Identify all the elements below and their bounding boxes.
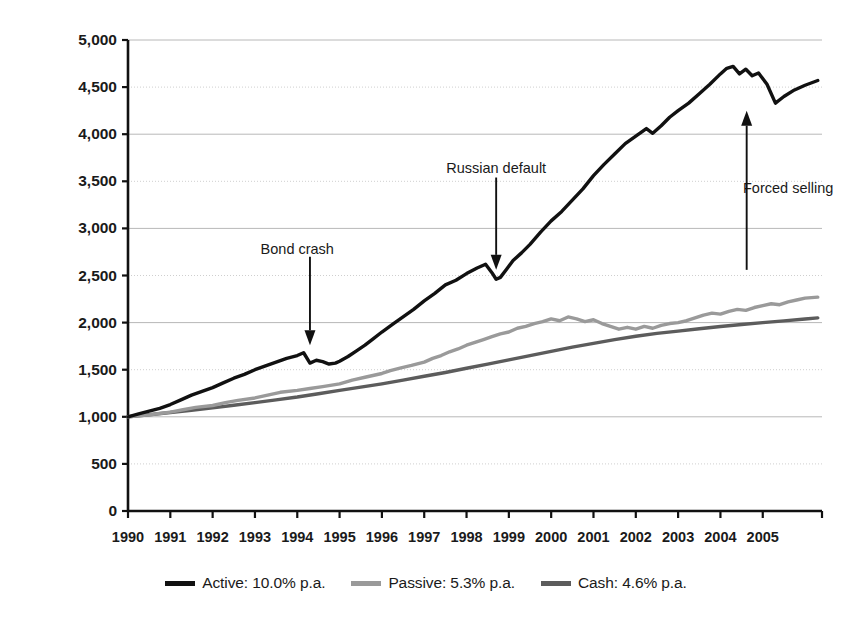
chart-figure: Cumulative performance (1.1.1990 = 1,000… <box>0 0 852 617</box>
legend-swatch-icon <box>541 581 571 586</box>
series-line-active <box>128 66 818 416</box>
legend-swatch-icon <box>351 581 381 586</box>
chart-legend: Active: 10.0% p.a.Passive: 5.3% p.a.Cash… <box>0 566 852 600</box>
legend-swatch-icon <box>165 581 195 586</box>
legend-item[interactable]: Cash: 4.6% p.a. <box>541 574 687 592</box>
series-line-passive <box>128 297 818 417</box>
annotation-arrow-head <box>491 255 502 270</box>
legend-item[interactable]: Passive: 5.3% p.a. <box>351 574 515 592</box>
annotation-arrow-head <box>741 111 752 126</box>
legend-item[interactable]: Active: 10.0% p.a. <box>165 574 325 592</box>
legend-label: Cash: 4.6% p.a. <box>578 574 687 592</box>
plot-canvas <box>0 0 852 617</box>
annotation-arrow-head <box>304 330 315 345</box>
legend-label: Active: 10.0% p.a. <box>202 574 325 592</box>
legend-label: Passive: 5.3% p.a. <box>388 574 515 592</box>
